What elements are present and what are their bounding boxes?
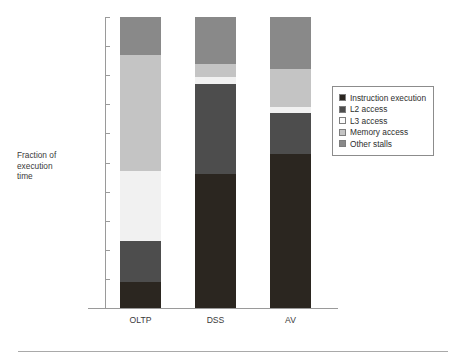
legend-swatch-icon — [339, 117, 346, 124]
y-tick-mark — [105, 250, 110, 251]
chart-legend: Instruction executionL2 accessL3 accessM… — [332, 86, 434, 156]
legend-item-label: Instruction execution — [350, 93, 426, 103]
y-tick: 20% — [88, 250, 114, 251]
x-axis-label-oltp: OLTP — [100, 315, 181, 325]
legend-item[interactable]: Memory access — [339, 127, 426, 139]
plot-area: 100%90%80%70%60%50%40%30%20%10%0% OLTPDS… — [88, 17, 338, 325]
y-tick: 90% — [88, 46, 114, 47]
y-tick: 10% — [88, 279, 114, 280]
bar-segment[interactable] — [195, 84, 236, 174]
stacked-bar[interactable] — [120, 17, 161, 308]
x-axis-label-av: AV — [250, 315, 331, 325]
y-tick: 40% — [88, 192, 114, 193]
bar-segment[interactable] — [120, 241, 161, 282]
legend-swatch-icon — [339, 106, 346, 113]
y-tick-mark — [105, 75, 110, 76]
y-tick-mark — [105, 279, 110, 280]
legend-item[interactable]: Other stalls — [339, 138, 426, 150]
y-axis-title: Fraction of execution time — [17, 150, 83, 182]
bar-segment[interactable] — [120, 171, 161, 241]
y-tick: 70% — [88, 104, 114, 105]
y-tick: 60% — [88, 133, 114, 134]
legend-item[interactable]: L2 access — [339, 104, 426, 116]
y-tick-mark — [105, 104, 110, 105]
bar-segment[interactable] — [195, 77, 236, 84]
y-tick-mark — [105, 308, 110, 309]
bar-segment[interactable] — [195, 64, 236, 77]
chart-figure: Fraction of execution time 100%90%80%70%… — [0, 0, 466, 364]
bar-group-oltp[interactable]: OLTP — [120, 17, 161, 308]
bar-segment[interactable] — [270, 17, 311, 69]
y-tick-mark — [105, 163, 110, 164]
y-tick: 0% — [88, 308, 114, 309]
legend-item[interactable]: L3 access — [339, 115, 426, 127]
legend-swatch-icon — [339, 94, 346, 101]
bar-segment[interactable] — [120, 17, 161, 55]
bar-segment[interactable] — [270, 154, 311, 308]
bar-segment[interactable] — [270, 113, 311, 154]
y-tick-mark — [105, 46, 110, 47]
legend-item[interactable]: Instruction execution — [339, 92, 426, 104]
bar-group-dss[interactable]: DSS — [195, 17, 236, 308]
y-tick: 30% — [88, 221, 114, 222]
bar-segment[interactable] — [120, 55, 161, 171]
y-tick-mark — [105, 17, 110, 18]
legend-item-label: Memory access — [350, 127, 408, 137]
bar-segment[interactable] — [195, 174, 236, 308]
page-divider-rule — [18, 351, 448, 352]
bar-segment[interactable] — [195, 17, 236, 64]
y-tick-mark — [105, 133, 110, 134]
legend-swatch-icon — [339, 140, 346, 147]
legend-item-label: L3 access — [350, 116, 387, 126]
x-axis-line — [88, 308, 338, 309]
stacked-bar[interactable] — [270, 17, 311, 308]
y-tick: 100% — [88, 17, 114, 18]
legend-item-label: Other stalls — [350, 139, 392, 149]
x-axis-label-dss: DSS — [175, 315, 256, 325]
y-tick: 50% — [88, 163, 114, 164]
bar-group-av[interactable]: AV — [270, 17, 311, 308]
y-tick-mark — [105, 192, 110, 193]
bar-segment[interactable] — [270, 69, 311, 107]
stacked-bar[interactable] — [195, 17, 236, 308]
y-tick: 80% — [88, 75, 114, 76]
y-tick-mark — [105, 221, 110, 222]
bar-segment[interactable] — [120, 282, 161, 308]
legend-item-label: L2 access — [350, 104, 387, 114]
legend-swatch-icon — [339, 129, 346, 136]
